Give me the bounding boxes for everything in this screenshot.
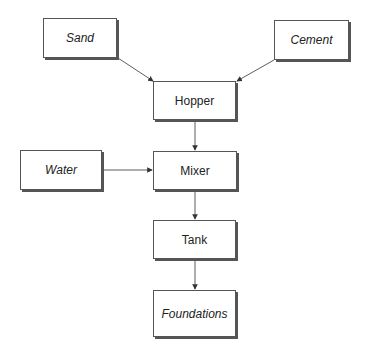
node-water: Water [20, 150, 102, 190]
node-sand: Sand [43, 18, 117, 58]
node-mixer: Mixer [153, 151, 237, 190]
node-tank: Tank [153, 220, 236, 259]
node-hopper: Hopper [153, 81, 236, 120]
node-cement: Cement [274, 20, 349, 60]
edge-sand-hopper [118, 58, 153, 81]
edge-cement-hopper [237, 60, 274, 81]
node-foundations: Foundations [153, 290, 236, 337]
